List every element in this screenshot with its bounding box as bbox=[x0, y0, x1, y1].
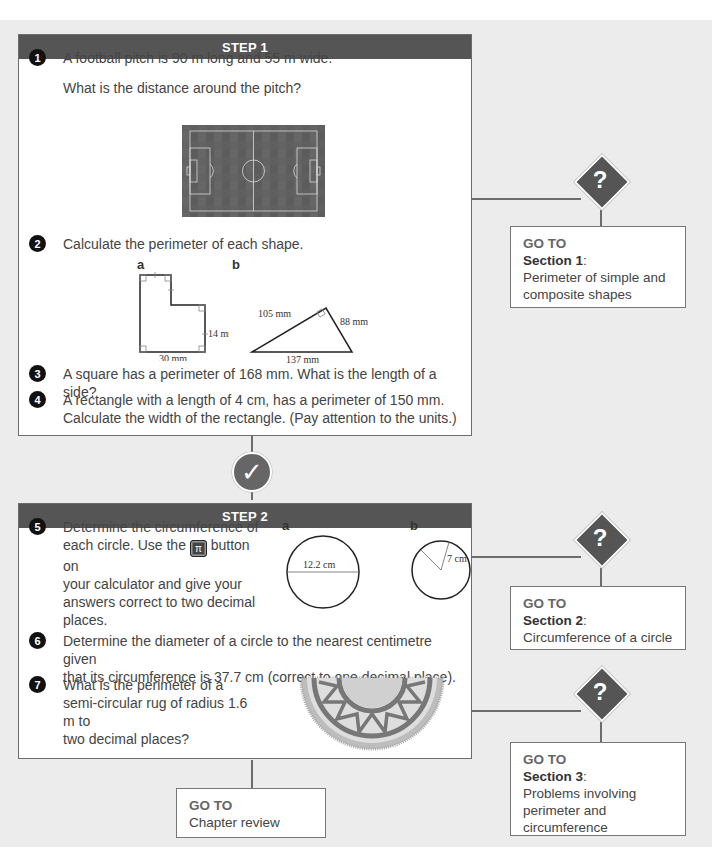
circle-b-label: b bbox=[410, 518, 418, 533]
shape-a-dim-right: 14 mm bbox=[208, 328, 229, 339]
goto-section: Section 2 bbox=[523, 613, 583, 628]
goto-chapter-review[interactable]: GO TO Chapter review bbox=[176, 788, 326, 838]
connector-q3-down bbox=[600, 722, 602, 742]
goto-colon: : bbox=[583, 253, 587, 268]
circle-b-diagram: 7 cm bbox=[409, 538, 475, 604]
semicircular-rug-image bbox=[297, 674, 447, 754]
step1-panel: STEP 1 1 A football pitch is 90 m long a… bbox=[18, 34, 472, 436]
connector-q2-down bbox=[600, 568, 602, 586]
question-1: 1 A football pitch is 90 m long and 55 m… bbox=[29, 49, 461, 97]
goto-label: GO TO bbox=[523, 751, 673, 768]
goto-section: Section 3 bbox=[523, 769, 583, 784]
question-4: 4 A rectangle with a length of 4 cm, has… bbox=[29, 391, 461, 427]
question-text: What is the perimeter of a bbox=[63, 676, 259, 694]
shape-b-label: b bbox=[232, 257, 240, 272]
goto-text: circumference bbox=[523, 819, 673, 836]
circle-a-diameter: 12.2 cm bbox=[303, 559, 335, 570]
question-text: places. bbox=[63, 611, 259, 629]
question-text-part: each circle. Use the bbox=[63, 537, 186, 553]
football-pitch-image bbox=[182, 125, 325, 217]
question-number: 6 bbox=[29, 632, 46, 649]
question-text: Calculate the perimeter of each shape. bbox=[63, 235, 461, 253]
circle-b-radius: 7 cm bbox=[447, 553, 467, 564]
goto-section: Section 1 bbox=[523, 253, 583, 268]
question-5: 5 Determine the circumference of each ci… bbox=[29, 518, 259, 629]
shape-b-side-right: 88 mm bbox=[340, 316, 368, 327]
goto-text: Chapter review bbox=[189, 814, 313, 831]
shape-a-lshape: 14 mm 30 mm bbox=[119, 271, 229, 361]
shape-a-dim-bottom: 30 mm bbox=[159, 353, 187, 361]
question-text: answers correct to two decimal bbox=[63, 593, 259, 611]
question-text: semi-circular rug of radius 1.6 m to bbox=[63, 694, 259, 730]
connector-step1-right bbox=[471, 198, 581, 200]
shape-b-triangle: 105 mm 88 mm 137 mm bbox=[244, 295, 379, 365]
question-number: 1 bbox=[29, 49, 46, 66]
question-7: 7 What is the perimeter of a semi-circul… bbox=[29, 676, 259, 748]
question-text: What is the distance around the pitch? bbox=[63, 79, 461, 97]
goto-section-3[interactable]: GO TO Section 3: Problems involving peri… bbox=[510, 742, 686, 836]
shape-a-label: a bbox=[137, 257, 144, 272]
step2-panel: STEP 2 5 Determine the circumference of … bbox=[18, 503, 472, 759]
question-text: Calculate the width of the rectangle. (P… bbox=[63, 409, 461, 427]
question-text: two decimal places? bbox=[63, 730, 259, 748]
question-mark-icon: ? bbox=[575, 513, 625, 563]
question-number: 4 bbox=[29, 391, 46, 408]
goto-section-2[interactable]: GO TO Section 2: Circumference of a circ… bbox=[510, 586, 686, 650]
goto-section-1[interactable]: GO TO Section 1: Perimeter of simple and… bbox=[510, 226, 686, 308]
question-mark-icon: ? bbox=[575, 667, 625, 717]
goto-text: composite shapes bbox=[523, 286, 673, 303]
question-mark-icon: ? bbox=[575, 155, 625, 205]
shape-b-side-bottom: 137 mm bbox=[286, 354, 319, 365]
pi-key-icon: π bbox=[190, 540, 207, 557]
connector-step2-right bbox=[471, 556, 581, 558]
question-2: 2 Calculate the perimeter of each shape. bbox=[29, 235, 461, 253]
goto-colon: : bbox=[583, 613, 587, 628]
connector-step2-right2 bbox=[471, 710, 581, 712]
circle-a-diagram: 12.2 cm bbox=[283, 532, 363, 612]
question-number: 5 bbox=[29, 518, 46, 535]
question-text: your calculator and give your bbox=[63, 575, 259, 593]
question-text: Determine the circumference of bbox=[63, 518, 259, 536]
connector-review-down bbox=[251, 760, 253, 788]
goto-text: Perimeter of simple and bbox=[523, 269, 673, 286]
goto-label: GO TO bbox=[523, 235, 673, 252]
goto-label: GO TO bbox=[523, 595, 673, 612]
circle-a-label: a bbox=[282, 518, 289, 533]
goto-text: Circumference of a circle bbox=[523, 629, 673, 646]
goto-text: perimeter and bbox=[523, 802, 673, 819]
question-text: A football pitch is 90 m long and 55 m w… bbox=[63, 49, 461, 67]
goto-label: GO TO bbox=[189, 797, 313, 814]
question-text: each circle. Use the π button on bbox=[63, 536, 259, 575]
check-icon: ✓ bbox=[232, 452, 272, 492]
goto-text: Problems involving bbox=[523, 785, 673, 802]
question-text: Determine the diameter of a circle to th… bbox=[63, 632, 461, 668]
question-number: 3 bbox=[29, 365, 46, 382]
question-number: 7 bbox=[29, 676, 46, 693]
question-number: 2 bbox=[29, 235, 46, 252]
shape-b-side-left: 105 mm bbox=[258, 308, 291, 319]
question-text: A rectangle with a length of 4 cm, has a… bbox=[63, 391, 461, 409]
goto-colon: : bbox=[583, 769, 587, 784]
